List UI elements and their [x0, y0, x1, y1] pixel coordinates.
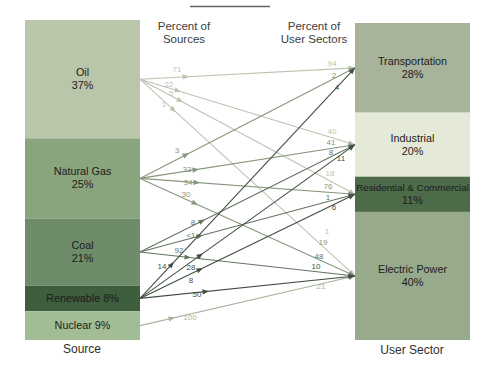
- percent-of-sector-value: 40: [328, 127, 337, 136]
- percent-of-sector-value: 21: [317, 282, 326, 291]
- source-axis-label: Source: [63, 342, 101, 356]
- flow-line: [140, 145, 355, 252]
- percent-of-sector-value: 19: [319, 238, 328, 247]
- source-segment-natural_gas: Natural Gas25%: [25, 138, 140, 218]
- percent-of-source-value: 33: [183, 165, 192, 174]
- flow-arrowhead-mid: [191, 200, 198, 205]
- percent-of-sector-value: 18: [326, 169, 335, 178]
- percent-of-sector-value: 48: [315, 252, 324, 261]
- sector-percent: 40%: [402, 276, 424, 288]
- bars-layer: Oil37%Natural Gas25%Coal21%Renewable 8%N…: [25, 20, 470, 340]
- percent-of-source-value: 14: [158, 262, 167, 271]
- flow-arrowhead-mid: [192, 168, 199, 173]
- percent-of-sector-value: 1: [326, 193, 331, 202]
- percent-of-source-value: 28: [187, 263, 196, 272]
- flow-line: [140, 145, 355, 299]
- percent-of-user-sectors-header-line1: Percent of: [288, 20, 341, 32]
- source-segment-renewable: Renewable 8%: [25, 286, 140, 312]
- flow-arrowhead-end: [348, 194, 355, 199]
- sector-percent: 20%: [402, 145, 424, 157]
- percent-of-source-value: 8: [189, 276, 194, 285]
- percent-of-sector-value: 2: [332, 71, 337, 80]
- flow-natural_gas-electric_power: 3019: [140, 178, 355, 276]
- source-percent: 21%: [72, 252, 94, 264]
- flow-renewable-electric_power: 5010: [140, 262, 355, 299]
- flow-arrowhead-mid: [202, 289, 209, 294]
- percent-of-sector-value: 8: [329, 148, 334, 157]
- percent-of-source-value: 3: [175, 146, 180, 155]
- percent-of-source-value: 50: [193, 290, 202, 299]
- flow-coal-industrial: 88: [140, 145, 355, 252]
- flow-natural_gas-industrial: 3341: [140, 138, 355, 179]
- sector-percent: 11%: [402, 194, 423, 206]
- percent-of-source-value: 5: [169, 89, 174, 98]
- source-label: Nuclear 9%: [55, 319, 111, 331]
- percent-of-sector-value: 4: [335, 83, 340, 92]
- energy-flow-svg: Percent of Sources Percent of User Secto…: [0, 0, 495, 371]
- percent-of-sector-value: 94: [328, 59, 337, 68]
- percent-of-source-value: 100: [183, 313, 197, 322]
- percent-of-user-sectors-header-line2: User Sectors: [281, 33, 348, 45]
- flow-arrowhead-mid: [176, 97, 183, 102]
- percent-of-source-value: 30: [182, 190, 191, 199]
- percent-of-sources-header-line2: Sources: [163, 33, 205, 45]
- sector-segment-transportation: Transportation28%: [355, 23, 470, 113]
- flows-layer: 7194224051811100213233413476301988<11924…: [140, 59, 355, 326]
- source-percent: 25%: [72, 178, 94, 190]
- percent-of-sector-value: 1: [325, 227, 330, 236]
- percent-of-sector-value: 6: [332, 203, 337, 212]
- flow-arrowhead-mid: [193, 180, 200, 185]
- percent-of-sector-value: 11: [337, 154, 346, 163]
- flow-arrowhead-mid: [184, 254, 191, 259]
- percent-of-sources-header-line1: Percent of: [158, 20, 211, 32]
- percent-of-source-value: 1: [162, 100, 167, 109]
- flow-arrowhead-mid: [196, 268, 203, 273]
- percent-of-sector-value: 10: [312, 262, 321, 271]
- sector-segment-residential_commercial: Residential & Commercial11%: [355, 177, 470, 212]
- percent-of-sector-value: 41: [327, 138, 336, 147]
- percent-of-sector-value: 76: [324, 182, 333, 191]
- flow-renewable-industrial: 2811: [140, 145, 355, 299]
- source-segment-oil: Oil37%: [25, 20, 140, 138]
- flow-arrowhead-mid: [174, 87, 181, 92]
- sector-label: Industrial: [391, 132, 435, 144]
- flow-arrowhead-mid: [182, 74, 189, 79]
- sector-label: Residential & Commercial: [356, 182, 469, 193]
- sector-segment-electric_power: Electric Power40%: [355, 212, 470, 340]
- source-label: Natural Gas: [54, 165, 112, 177]
- energy-flow-figure: Percent of Sources Percent of User Secto…: [0, 0, 495, 371]
- sector-segment-industrial: Industrial20%: [355, 113, 470, 177]
- source-percent: 37%: [72, 79, 94, 91]
- flow-arrowhead-mid: [198, 220, 205, 225]
- flow-line: [140, 178, 355, 276]
- sector-label: Transportation: [378, 55, 447, 67]
- source-label: Renewable 8%: [46, 292, 119, 304]
- user-sector-axis-label: User Sector: [380, 343, 443, 357]
- source-segment-nuclear: Nuclear 9%: [25, 311, 140, 340]
- source-label: Coal: [71, 239, 93, 251]
- source-label: Oil: [76, 66, 89, 78]
- flow-oil-transportation: 7194: [140, 59, 355, 80]
- percent-of-source-value: 71: [173, 65, 182, 74]
- sector-percent: 28%: [402, 68, 424, 80]
- sector-label: Electric Power: [378, 263, 447, 275]
- percent-of-source-value: <1: [186, 231, 196, 240]
- flow-arrowhead-mid: [182, 153, 189, 158]
- source-segment-coal: Coal21%: [25, 218, 140, 285]
- percent-of-source-value: 22: [165, 80, 174, 89]
- percent-of-source-value: 34: [184, 178, 193, 187]
- percent-of-source-value: 8: [191, 218, 196, 227]
